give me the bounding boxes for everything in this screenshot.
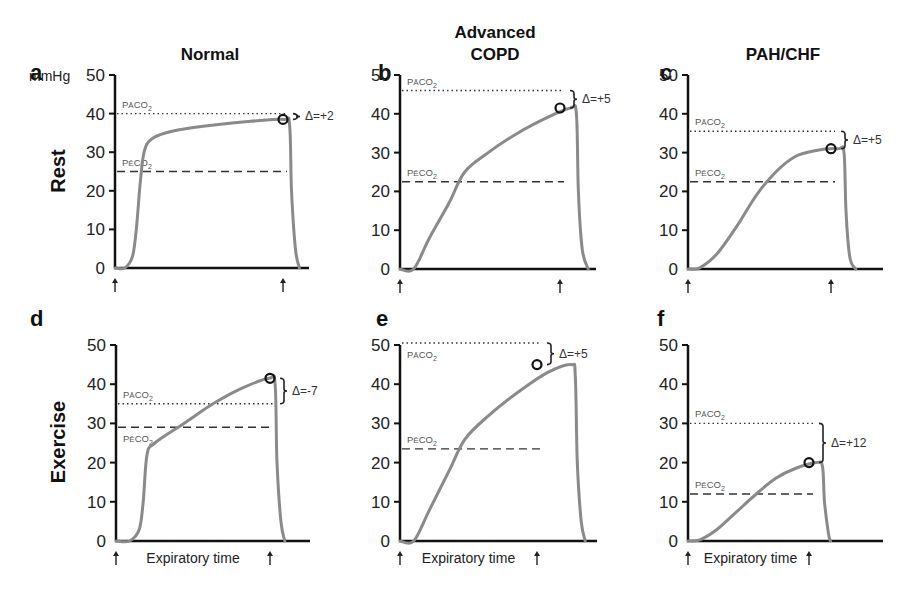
panel-e: e01020304050PĀCO2PĒCO2Δ=+5Expiratory tim… [371, 306, 597, 566]
paco2-label: PĀCO2 [122, 99, 152, 112]
panel-title: PAH/CHF [746, 45, 820, 64]
arrow-head-icon [113, 551, 119, 556]
co2-curve [115, 118, 299, 269]
y-tick-label: 50 [371, 336, 390, 355]
y-tick-label: 10 [87, 493, 106, 512]
y-tick-label: 50 [659, 66, 678, 85]
panel-b: bAdvancedCOPD01020304050PĀCO2PĒCO2Δ=+5 [371, 23, 611, 293]
y-tick-label: 30 [86, 143, 105, 162]
arrow-head-icon [534, 551, 540, 556]
co2-curve [400, 105, 588, 271]
paco2-label: PĀCO2 [695, 116, 725, 129]
y-tick-label: 0 [97, 532, 106, 551]
y-tick-label: 40 [371, 105, 390, 124]
co2-curve [688, 147, 856, 269]
y-tick-label: 10 [371, 493, 390, 512]
y-tick-label: 20 [87, 454, 106, 473]
delta-label: Δ=+2 [305, 109, 334, 123]
arrow-head-icon [397, 279, 403, 284]
paco2-label: PĀCO2 [407, 349, 437, 362]
delta-brace [293, 114, 300, 120]
arrow-head-icon [280, 278, 286, 283]
end-tidal-marker [533, 360, 542, 369]
paco2-label: PĀCO2 [123, 389, 153, 402]
y-tick-label: 40 [371, 375, 390, 394]
y-tick-label: 10 [659, 221, 678, 240]
y-tick-label: 30 [659, 144, 678, 163]
panel-title: COPD [470, 45, 519, 64]
y-tick-label: 0 [381, 532, 390, 551]
y-tick-label: 0 [381, 260, 390, 279]
delta-label: Δ=+5 [559, 347, 588, 361]
arrow-head-icon [828, 279, 834, 284]
y-tick-label: 50 [371, 66, 390, 85]
panel-title: Advanced [454, 23, 535, 42]
arrow-head-icon [557, 279, 563, 284]
y-tick-label: 20 [659, 454, 678, 473]
arrow-head-icon [112, 278, 118, 283]
y-tick-label: 50 [659, 336, 678, 355]
y-tick-label: 40 [86, 105, 105, 124]
y-tick-label: 20 [659, 182, 678, 201]
co2-curve [116, 376, 285, 542]
panel-letter: d [30, 306, 43, 331]
panel-d: d01020304050PĀCO2PĒCO2Δ=-7Expiratory tim… [30, 306, 318, 566]
x-axis-label: Expiratory time [422, 550, 516, 566]
panel-c: cPAH/CHF01020304050PĀCO2PĒCO2Δ=+5 [659, 45, 883, 293]
delta-brace [280, 378, 287, 403]
y-tick-label: 0 [669, 532, 678, 551]
peco2-label: PĒCO2 [122, 157, 152, 170]
y-tick-label: 50 [86, 66, 105, 85]
paco2-label: PĀCO2 [695, 408, 725, 421]
row-label-rest: Rest [47, 149, 69, 193]
panel-title: Normal [181, 45, 240, 64]
figure-canvas: aNormal01020304050PĀCO2PĒCO2Δ=+2bAdvance… [0, 0, 907, 595]
paco2-label: PĀCO2 [407, 76, 437, 89]
y-tick-label: 20 [371, 182, 390, 201]
peco2-label: PĒCO2 [407, 167, 437, 180]
panel-a: aNormal01020304050PĀCO2PĒCO2Δ=+2 [30, 45, 334, 292]
delta-brace [547, 343, 554, 365]
co2-curve [400, 364, 585, 543]
peco2-label: PĒCO2 [695, 479, 725, 492]
y-tick-label: 0 [96, 259, 105, 278]
arrow-head-icon [267, 551, 273, 556]
delta-brace [819, 423, 826, 462]
y-tick-label: 40 [659, 105, 678, 124]
row-label-exercise: Exercise [47, 401, 69, 483]
y-tick-label: 20 [371, 454, 390, 473]
y-tick-label: 10 [86, 220, 105, 239]
delta-label: Δ=+5 [582, 92, 611, 106]
arrow-head-icon [685, 279, 691, 284]
y-tick-label: 30 [371, 414, 390, 433]
arrow-head-icon [685, 551, 691, 556]
y-tick-label: 50 [87, 336, 106, 355]
panel-letter: e [376, 306, 388, 331]
panel-letter: f [657, 306, 665, 331]
arrow-head-icon [806, 551, 812, 556]
y-tick-label: 30 [659, 414, 678, 433]
y-tick-label: 40 [87, 375, 106, 394]
delta-label: Δ=+12 [831, 436, 867, 450]
x-axis-label: Expiratory time [704, 550, 798, 566]
y-tick-label: 30 [371, 144, 390, 163]
y-tick-label: 30 [87, 414, 106, 433]
y-tick-label: 0 [669, 260, 678, 279]
co2-curve [688, 462, 830, 541]
delta-label: Δ=+5 [853, 133, 882, 147]
delta-label: Δ=-7 [292, 384, 318, 398]
y-unit-label: mmHg [29, 68, 70, 84]
x-axis-label: Expiratory time [146, 550, 240, 566]
y-tick-label: 10 [659, 493, 678, 512]
panel-f: f01020304050PĀCO2PĒCO2Δ=+12Expiratory ti… [657, 306, 883, 566]
arrow-head-icon [397, 551, 403, 556]
peco2-label: PĒCO2 [695, 167, 725, 180]
y-tick-label: 20 [86, 182, 105, 201]
peco2-label: PĒCO2 [123, 433, 153, 446]
y-tick-label: 40 [659, 375, 678, 394]
y-tick-label: 10 [371, 221, 390, 240]
peco2-label: PĒCO2 [407, 434, 437, 447]
